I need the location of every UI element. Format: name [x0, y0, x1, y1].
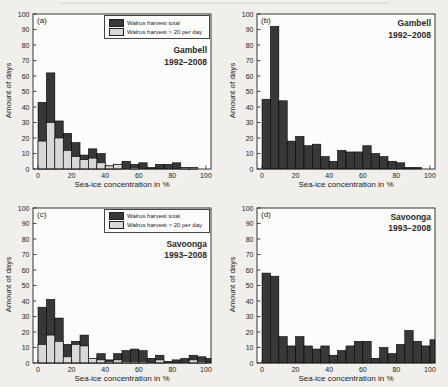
panel-title: Savoonga 1993−2008 [164, 239, 207, 262]
y-tick-label: 90 [246, 26, 254, 33]
walrus-harvest-figure: 0204060801000102030405060708090100 Amoun… [0, 0, 448, 387]
x-tick-label: 60 [135, 366, 143, 373]
legend-item-gt20: Walrus harvest > 20 per day [109, 221, 206, 230]
y-tick-label: 50 [246, 88, 254, 95]
legend-swatch-total [109, 19, 124, 27]
panel-title: Gambell 1992−2008 [388, 18, 431, 41]
legend-label-gt20: Walrus harvest > 20 per day [127, 222, 202, 228]
histogram-bar [114, 164, 122, 169]
legend-label-gt20: Walrus harvest > 20 per day [127, 29, 202, 35]
y-tick-label: 80 [22, 235, 30, 242]
histogram-bar [371, 154, 379, 170]
histogram-bar [338, 150, 346, 169]
y-tick-label: 70 [246, 57, 254, 64]
histogram-bar [413, 341, 421, 363]
histogram-bar [172, 163, 180, 169]
histogram-bar [72, 344, 80, 363]
panel-letter: (b) [261, 16, 271, 25]
histogram-bar [321, 157, 329, 169]
y-tick-label: 10 [22, 344, 30, 351]
y-tick-label: 100 [242, 11, 254, 18]
histogram-bar [55, 341, 63, 363]
histogram-bar [122, 350, 130, 362]
y-tick-label: 0 [26, 359, 30, 366]
histogram-bar [396, 163, 404, 169]
year-range: 1993−2008 [388, 223, 431, 235]
histogram-bar [172, 359, 180, 362]
year-range: 1992−2008 [388, 30, 431, 42]
y-tick-label: 50 [22, 88, 30, 95]
histogram-bar [63, 356, 71, 362]
histogram-bar [270, 276, 278, 363]
histogram-bar [63, 150, 71, 169]
y-tick-label: 60 [22, 73, 30, 80]
y-tick-label: 40 [246, 297, 254, 304]
y-tick-label: 100 [18, 204, 30, 211]
year-range: 1992−2008 [164, 57, 207, 69]
panel-letter: (a) [37, 16, 47, 25]
y-tick-label: 30 [246, 313, 254, 320]
x-tick-label: 60 [359, 366, 367, 373]
x-tick-label: 80 [168, 366, 176, 373]
y-tick-label: 10 [22, 150, 30, 157]
histogram-bar [72, 157, 80, 169]
x-tick-label: 40 [101, 172, 109, 179]
histogram-bar [422, 345, 430, 362]
y-tick-label: 20 [246, 135, 254, 142]
y-tick-label: 0 [26, 166, 30, 173]
panel-b: 0204060801000102030405060708090100 Amoun… [224, 0, 448, 194]
histogram-bar [279, 101, 287, 169]
histogram-bar [279, 336, 287, 362]
legend-swatch-total [109, 212, 124, 220]
histogram-bar [38, 141, 46, 169]
histogram-bar [147, 358, 155, 363]
histogram-bar [405, 330, 413, 363]
y-axis-label: Amount of days [227, 224, 238, 344]
x-tick-label: 40 [101, 366, 109, 373]
histogram-bar [287, 345, 295, 362]
histogram-bar [312, 144, 320, 169]
y-axis-label: Amount of days [227, 31, 238, 151]
site-name: Savoonga [164, 239, 207, 251]
histogram-bar [304, 146, 312, 169]
x-tick-label: 60 [359, 172, 367, 179]
histogram-bar [88, 158, 96, 169]
histogram-bar [380, 157, 388, 169]
panel-d: 0204060801000102030405060708090100 Amoun… [224, 194, 448, 387]
histogram-bar [80, 345, 88, 362]
histogram-bar [262, 273, 270, 363]
y-tick-label: 40 [22, 297, 30, 304]
histogram-bar [346, 152, 354, 169]
site-name: Savoonga [388, 212, 431, 224]
x-tick-label: 0 [36, 366, 40, 373]
x-tick-label: 100 [424, 366, 436, 373]
x-axis-label: Sea-ice concentration in % [257, 180, 435, 190]
histogram-bar [189, 359, 197, 362]
year-range: 1993−2008 [164, 250, 207, 262]
histogram-bar [262, 99, 270, 169]
site-name: Gambell [164, 45, 207, 57]
histogram-bar [329, 355, 337, 363]
x-tick-label: 100 [200, 366, 212, 373]
histogram-bar [206, 358, 211, 363]
x-tick-label: 40 [325, 366, 333, 373]
x-axis-label: Sea-ice concentration in % [33, 374, 211, 384]
legend-box: Walrus harvest total Walrus harvest > 20… [104, 15, 210, 39]
x-tick-label: 20 [292, 366, 300, 373]
histogram-bar [388, 353, 396, 362]
histogram-bar [430, 339, 435, 362]
histogram-bar [296, 336, 304, 362]
histogram-bar [329, 161, 337, 169]
x-tick-label: 20 [68, 366, 76, 373]
y-tick-label: 70 [246, 251, 254, 258]
x-axis-label: Sea-ice concentration in % [33, 180, 211, 190]
y-tick-label: 30 [246, 119, 254, 126]
y-tick-label: 50 [246, 282, 254, 289]
site-name: Gambell [388, 18, 431, 30]
histogram-bar [304, 345, 312, 362]
x-axis-label: Sea-ice concentration in % [257, 374, 435, 384]
y-tick-label: 90 [22, 26, 30, 33]
histogram-bar [371, 358, 379, 363]
histogram-bar [88, 358, 96, 363]
y-tick-label: 80 [246, 42, 254, 49]
